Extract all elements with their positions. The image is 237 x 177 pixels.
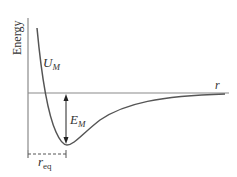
- depth-label: EM: [69, 112, 86, 129]
- arrow-head-up-icon: [64, 94, 69, 101]
- potential-curve: [37, 28, 225, 145]
- y-axis-label: Energy: [10, 21, 24, 55]
- arrow-head-down-icon: [64, 137, 69, 144]
- potential-energy-diagram: Energy r UM EM req: [0, 0, 237, 177]
- x-axis-label: r: [215, 78, 220, 92]
- curve-label: UM: [43, 55, 60, 72]
- equilibrium-label: req: [38, 154, 52, 171]
